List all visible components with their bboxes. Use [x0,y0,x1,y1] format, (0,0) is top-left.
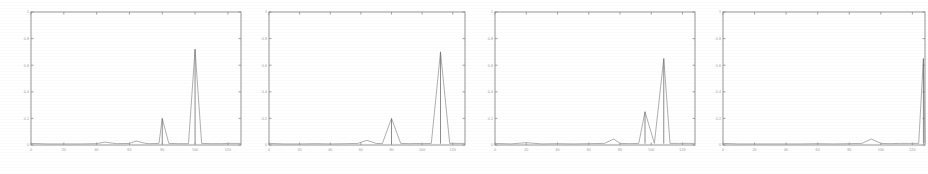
data-trace [495,59,695,144]
panel-3: 02040608010012000.20.40.60.81 [472,0,698,174]
y-tick-label: 0.8 [488,37,493,41]
x-tick-label: 120 [909,148,915,152]
y-tick-label: 0 [27,143,29,147]
y-tick-label: 1 [27,10,29,14]
y-tick-label: 0.6 [24,64,29,68]
x-tick-label: 60 [816,148,820,152]
x-tick-label: 60 [587,148,591,152]
x-tick-label: 80 [618,148,622,152]
x-tick-label: 0 [268,148,270,152]
x-tick-label: 20 [752,148,756,152]
x-tick-label: 120 [679,148,685,152]
x-tick-label: 20 [298,148,302,152]
x-tick-label: 100 [419,148,425,152]
y-tick-label: 0.2 [262,117,267,121]
y-tick-label: 0 [491,143,493,147]
y-tick-label: 0.8 [262,37,267,41]
y-tick-label: 0.6 [488,64,493,68]
x-tick-label: 80 [847,148,851,152]
x-tick-label: 40 [328,148,332,152]
panel-1: 02040608010012000.20.40.60.81 [8,0,244,174]
y-tick-label: 1 [491,10,493,14]
y-tick-label: 0.6 [716,64,721,68]
panel-2: 02040608010012000.20.40.60.81 [246,0,468,174]
y-tick-label: 0.4 [488,90,493,94]
figure-container: 02040608010012000.20.40.60.81 0204060801… [0,0,928,174]
x-tick-label: 0 [30,148,32,152]
x-tick-label: 100 [192,148,198,152]
plot-frame [31,12,241,145]
plot-frame [723,12,925,145]
x-tick-label: 40 [555,148,559,152]
x-tick-label: 0 [494,148,496,152]
y-tick-label: 0.2 [24,117,29,121]
y-tick-label: 0.8 [24,37,29,41]
panel-4-plot: 02040608010012000.20.40.60.81 [700,0,928,174]
x-tick-label: 60 [127,148,131,152]
data-trace [723,59,925,144]
data-trace [31,49,241,144]
panel-3-plot: 02040608010012000.20.40.60.81 [472,0,698,174]
panel-1-plot: 02040608010012000.20.40.60.81 [8,0,244,174]
y-tick-label: 0 [719,143,721,147]
y-tick-label: 0.4 [262,90,267,94]
x-tick-label: 120 [225,148,231,152]
y-tick-label: 0.8 [716,37,721,41]
y-tick-label: 0.2 [488,117,493,121]
x-tick-label: 120 [450,148,456,152]
x-tick-label: 100 [648,148,654,152]
x-tick-label: 0 [722,148,724,152]
y-tick-label: 1 [265,10,267,14]
x-tick-label: 20 [524,148,528,152]
y-tick-label: 0 [265,143,267,147]
y-tick-label: 0.4 [716,90,721,94]
x-tick-label: 20 [62,148,66,152]
data-trace [269,52,465,144]
panel-4: 02040608010012000.20.40.60.81 [700,0,928,174]
plot-frame [269,12,465,145]
y-tick-label: 1 [719,10,721,14]
x-tick-label: 100 [878,148,884,152]
x-tick-label: 80 [389,148,393,152]
y-tick-label: 0.4 [24,90,29,94]
x-tick-label: 40 [95,148,99,152]
x-tick-label: 40 [784,148,788,152]
y-tick-label: 0.6 [262,64,267,68]
x-tick-label: 80 [160,148,164,152]
x-tick-label: 60 [359,148,363,152]
y-tick-label: 0.2 [716,117,721,121]
panel-2-plot: 02040608010012000.20.40.60.81 [246,0,468,174]
